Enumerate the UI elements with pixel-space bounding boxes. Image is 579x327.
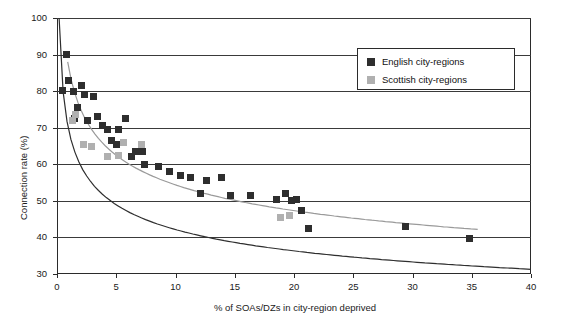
data-point: [227, 192, 234, 199]
data-point: [305, 225, 312, 232]
legend-swatch-scottish: [367, 76, 375, 84]
data-point: [138, 141, 145, 148]
data-point: [286, 212, 293, 219]
legend-swatch-english: [367, 58, 375, 66]
data-point: [70, 88, 77, 95]
data-point: [90, 93, 97, 100]
data-point: [203, 177, 210, 184]
data-point: [104, 153, 111, 160]
chart-container: 30405060708090100 0510152025303540 Conne…: [0, 0, 579, 327]
data-point: [104, 126, 111, 133]
data-point: [84, 117, 91, 124]
data-point: [132, 148, 139, 155]
data-point: [293, 196, 300, 203]
data-point: [298, 207, 305, 214]
data-point: [81, 91, 88, 98]
data-point: [63, 51, 70, 58]
legend-item-scottish: Scottish city-regions: [367, 74, 505, 85]
data-point: [94, 113, 101, 120]
data-point: [247, 192, 254, 199]
legend-label-scottish: Scottish city-regions: [382, 74, 467, 85]
data-point: [277, 214, 284, 221]
data-point: [139, 148, 146, 155]
data-point: [218, 174, 225, 181]
data-point: [120, 139, 127, 146]
data-point: [187, 174, 194, 181]
data-point: [88, 143, 95, 150]
data-point: [166, 168, 173, 175]
data-point: [402, 223, 409, 230]
data-point: [115, 126, 122, 133]
data-point: [466, 235, 473, 242]
data-point: [122, 115, 129, 122]
data-point: [65, 77, 72, 84]
data-point: [282, 190, 289, 197]
data-point: [113, 141, 120, 148]
data-point: [155, 163, 162, 170]
data-point: [197, 190, 204, 197]
data-point: [80, 141, 87, 148]
data-point: [72, 111, 79, 118]
data-point: [78, 82, 85, 89]
data-point: [141, 161, 148, 168]
legend-item-english: English city-regions: [367, 56, 505, 67]
data-point: [74, 104, 81, 111]
data-point: [273, 196, 280, 203]
data-point: [115, 152, 122, 159]
legend-label-english: English city-regions: [382, 56, 464, 67]
legend: English city-regions Scottish city-regio…: [357, 48, 515, 90]
data-point: [59, 87, 66, 94]
data-point: [177, 172, 184, 179]
